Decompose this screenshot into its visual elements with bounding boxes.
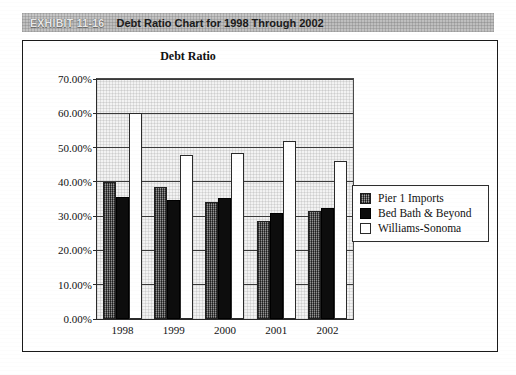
bar — [167, 200, 180, 319]
y-axis-tick-label: 20.00% — [58, 244, 92, 256]
bar — [116, 197, 129, 319]
bar — [180, 155, 193, 319]
chart-title: Debt Ratio — [23, 49, 353, 64]
y-axis-tick-label: 60.00% — [58, 107, 92, 119]
bar — [308, 211, 321, 319]
x-axis-tick-label: 2000 — [214, 324, 236, 336]
y-axis-tick-label: 10.00% — [58, 279, 92, 291]
bar — [334, 161, 347, 319]
legend-item-label: Bed Bath & Beyond — [378, 207, 472, 219]
legend-swatch-icon — [360, 193, 371, 204]
y-axis-tick-label: 0.00% — [64, 313, 92, 325]
bar — [205, 202, 218, 319]
bar — [218, 198, 231, 319]
bar-group: 1998 — [97, 79, 148, 319]
legend-item: Pier 1 Imports — [360, 192, 480, 204]
y-axis-tick-label: 40.00% — [58, 176, 92, 188]
x-axis-tick-label: 1998 — [112, 324, 134, 336]
bar — [154, 187, 167, 319]
exhibit-number-label: EXHIBIT 11-16 — [30, 17, 105, 29]
bar — [321, 208, 334, 319]
x-axis-tick-label: 2002 — [316, 324, 338, 336]
exhibit-header-band: EXHIBIT 11-16 Debt Ratio Chart for 1998 … — [22, 13, 494, 32]
legend-item-label: Pier 1 Imports — [378, 192, 444, 204]
chart-frame: Debt Ratio 0.00%10.00%20.00%30.00%40.00%… — [22, 40, 498, 352]
bar — [103, 182, 116, 319]
y-axis-tick-label: 30.00% — [58, 210, 92, 222]
legend-item: Williams-Sonoma — [360, 222, 480, 234]
legend-item-label: Williams-Sonoma — [378, 222, 461, 234]
legend-swatch-icon — [360, 223, 371, 234]
x-axis-tick-label: 1999 — [163, 324, 185, 336]
bar — [283, 141, 296, 319]
legend-swatch-icon — [360, 208, 371, 219]
bar — [231, 153, 244, 319]
bar-group: 2001 — [251, 79, 302, 319]
bar-group: 2000 — [199, 79, 250, 319]
bar — [270, 213, 283, 319]
y-axis-tick-label: 50.00% — [58, 142, 92, 154]
bar — [257, 221, 270, 319]
chart-legend: Pier 1 ImportsBed Bath & BeyondWilliams-… — [352, 185, 489, 242]
plot-area: 0.00%10.00%20.00%30.00%40.00%50.00%60.00… — [96, 78, 354, 320]
exhibit-title-label: Debt Ratio Chart for 1998 Through 2002 — [117, 17, 324, 29]
y-axis-tick-label: 70.00% — [58, 73, 92, 85]
bar — [129, 113, 142, 319]
legend-item: Bed Bath & Beyond — [360, 207, 480, 219]
bar-group: 2002 — [302, 79, 353, 319]
x-axis-tick-label: 2001 — [265, 324, 287, 336]
bar-group: 1999 — [148, 79, 199, 319]
